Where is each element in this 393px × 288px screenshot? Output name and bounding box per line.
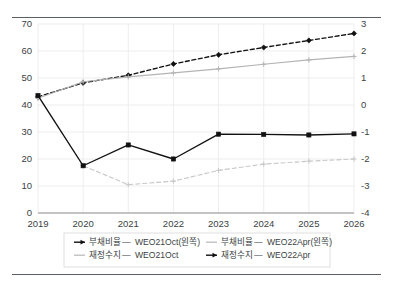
series-balance — [35, 93, 356, 187]
legend-item[interactable]: 재정수지—WEO21Oct — [74, 250, 179, 260]
data-point-marker — [171, 70, 176, 75]
left-axis-tick-labels: 010203040506070 — [21, 18, 32, 218]
left-axis-tick-label: 10 — [21, 180, 32, 191]
data-point-marker — [306, 57, 311, 62]
x-axis-tick-label: 2023 — [208, 218, 229, 229]
x-axis-tick-label: 2025 — [298, 218, 319, 229]
series-line — [38, 96, 354, 185]
bottom-divider-rule — [12, 274, 381, 275]
legend-label-en: WEO22Apr(왼쪽) — [267, 237, 332, 247]
series-line — [38, 96, 354, 166]
data-point-marker — [351, 54, 356, 59]
x-axis-tick-label: 2020 — [73, 218, 94, 229]
right-axis-tick-label: -3 — [361, 180, 369, 191]
top-divider-rule — [12, 17, 381, 18]
data-point-marker — [216, 52, 221, 57]
left-axis-tick-label: 60 — [21, 45, 32, 56]
left-axis-tick-label: 20 — [21, 153, 32, 164]
data-point-marker — [261, 45, 266, 50]
legend-label-en: WEO21Oct(왼쪽) — [135, 237, 200, 247]
legend-label-kr: 부채비율 — [221, 237, 253, 247]
series-line — [38, 56, 354, 98]
data-point-marker — [81, 164, 85, 168]
chart-figure: 010203040506070-4-3-2-101232019202020212… — [0, 0, 393, 288]
right-axis-tick-label: 1 — [361, 72, 366, 83]
legend-item[interactable]: 부채비율—WEO22Apr(왼쪽) — [206, 237, 332, 247]
x-axis-tick-label: 2024 — [253, 218, 274, 229]
series-debt — [35, 54, 356, 101]
right-axis-tick-label: -1 — [361, 126, 369, 137]
series-group — [35, 31, 356, 187]
legend-label-en: WEO22Apr — [267, 250, 311, 260]
x-axis-tick-label: 2026 — [343, 218, 364, 229]
data-point-marker — [36, 93, 40, 97]
legend-item[interactable]: 부채비율—WEO21Oct(왼쪽) — [74, 237, 200, 247]
right-axis-tick-label: 3 — [361, 18, 366, 29]
data-point-marker — [261, 62, 266, 67]
legend-label-kr: 재정수지 — [221, 250, 253, 260]
right-axis-tick-label: -2 — [361, 153, 369, 164]
right-axis-tick-labels: -4-3-2-10123 — [361, 18, 369, 218]
data-point-marker — [126, 143, 130, 147]
left-axis-tick-label: 50 — [21, 72, 32, 83]
data-point-marker — [351, 31, 356, 36]
grid-lines — [38, 24, 354, 213]
x-axis-tick-label: 2022 — [163, 218, 184, 229]
x-axis-tick-label: 2019 — [27, 218, 48, 229]
legend-label-kr: 재정수지 — [89, 250, 121, 260]
legend-label-separator: — — [122, 237, 131, 247]
series-line — [38, 33, 354, 96]
data-point-marker — [306, 38, 311, 43]
x-axis-tick-label: 2021 — [118, 218, 139, 229]
data-point-marker — [171, 61, 176, 66]
data-point-marker — [216, 66, 221, 71]
left-axis-tick-label: 0 — [27, 207, 32, 218]
legend-label-separator: — — [122, 250, 131, 260]
data-point-marker — [262, 132, 266, 136]
data-point-marker — [126, 182, 131, 187]
data-point-marker — [216, 132, 220, 136]
line-chart: 010203040506070-4-3-2-101232019202020212… — [0, 0, 393, 288]
data-point-marker — [261, 162, 266, 167]
legend-label-kr: 부채비율 — [89, 237, 121, 247]
left-axis-tick-label: 30 — [21, 126, 32, 137]
series-debt — [35, 31, 356, 100]
data-point-marker — [352, 132, 356, 136]
data-point-marker — [307, 133, 311, 137]
data-point-marker — [216, 168, 221, 173]
legend: 부채비율—WEO21Oct(왼쪽)부채비율—WEO22Apr(왼쪽)재정수지—W… — [64, 233, 332, 267]
data-point-marker — [171, 179, 176, 184]
data-point-marker — [351, 156, 356, 161]
legend-item[interactable]: 재정수지—WEO22Apr — [206, 250, 311, 260]
data-point-marker — [171, 157, 175, 161]
legend-label-separator: — — [254, 250, 263, 260]
x-axis-tick-labels: 20192020202120222023202420252026 — [27, 218, 364, 229]
left-axis-tick-label: 70 — [21, 18, 32, 29]
right-axis-tick-label: 0 — [361, 99, 366, 110]
right-axis-tick-label: -4 — [361, 207, 369, 218]
legend-label-separator: — — [254, 237, 263, 247]
legend-label-en: WEO21Oct — [135, 250, 179, 260]
right-axis-tick-label: 2 — [361, 45, 366, 56]
left-axis-tick-label: 40 — [21, 99, 32, 110]
